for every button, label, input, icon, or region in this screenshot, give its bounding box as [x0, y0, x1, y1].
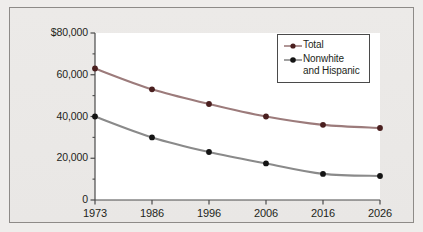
legend-marker-nonwhite-icon	[283, 54, 303, 66]
data-point-nonwhite-2026	[377, 173, 383, 179]
data-point-nonwhite-1973	[92, 114, 98, 120]
y-tick-label: $80,000	[51, 26, 88, 38]
chart-figure: $80,00060,00040,00020,0000 1973198619962…	[0, 0, 423, 232]
data-point-total-2006	[263, 114, 269, 120]
legend-label-nonwhite-line1: Nonwhite	[303, 53, 360, 65]
x-tick-label: 2026	[368, 207, 392, 219]
data-point-total-1996	[206, 101, 212, 107]
legend-item-nonwhite: Nonwhite and Hispanic	[283, 53, 364, 76]
data-point-nonwhite-2016	[320, 171, 326, 177]
data-point-total-1973	[92, 66, 98, 72]
legend-item-total: Total	[283, 39, 364, 52]
x-tick-label: 1973	[83, 207, 107, 219]
x-tick-label: 2006	[254, 207, 278, 219]
data-point-total-2016	[320, 122, 326, 128]
y-tick-label: 40,000	[56, 110, 88, 122]
x-tick-label: 1986	[140, 207, 164, 219]
data-point-nonwhite-1996	[206, 149, 212, 155]
data-point-total-1986	[149, 86, 155, 92]
legend-label-nonwhite-line2: and Hispanic	[303, 65, 360, 77]
y-tick-label: 60,000	[56, 68, 88, 80]
legend-marker-total-icon	[283, 40, 303, 52]
y-tick-label: 20,000	[56, 151, 88, 163]
data-point-total-2026	[377, 125, 383, 131]
x-tick-label: 1996	[197, 207, 221, 219]
x-tick-label: 2016	[311, 207, 335, 219]
chart-legend: Total Nonwhite and Hispanic	[277, 34, 370, 83]
data-point-nonwhite-2006	[263, 161, 269, 167]
data-point-nonwhite-1986	[149, 134, 155, 140]
legend-label-nonwhite: Nonwhite and Hispanic	[303, 53, 360, 76]
y-tick-label: 0	[82, 193, 88, 205]
plot-wrapper: $80,00060,00040,00020,0000 1973198619962…	[0, 0, 423, 232]
legend-label-total: Total	[303, 39, 324, 51]
